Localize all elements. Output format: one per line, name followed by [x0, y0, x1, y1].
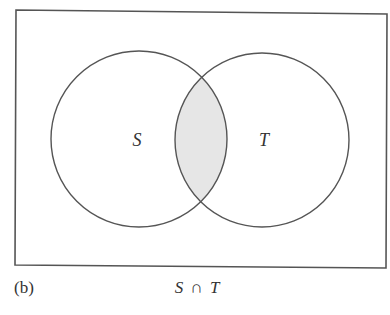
set-t-label: T [259, 130, 271, 150]
caption-right-set: T [210, 278, 221, 297]
venn-diagram: S T (b) S ∩ T [0, 0, 390, 315]
panel-label: (b) [14, 278, 34, 297]
caption-left-set: S [175, 278, 184, 297]
caption-operator: ∩ [190, 278, 202, 297]
caption: S ∩ T [175, 278, 221, 297]
set-s-label: S [133, 130, 142, 150]
